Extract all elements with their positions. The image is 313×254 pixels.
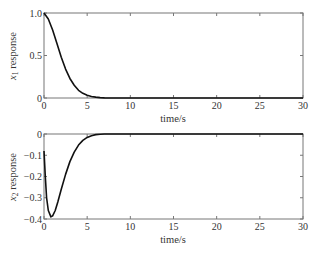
x1-ylabel: x1 response bbox=[7, 32, 20, 81]
x-tick-label: 25 bbox=[255, 221, 265, 232]
x-tick-label: 0 bbox=[42, 221, 47, 232]
y-tick-label: 0 bbox=[37, 93, 42, 104]
x1-line bbox=[44, 13, 303, 98]
x-tick-label: 30 bbox=[298, 100, 308, 111]
x1-response-plot: 05101520253000.51.0 time/s x1 response bbox=[7, 8, 308, 125]
y-tick-label: 0 bbox=[37, 129, 42, 140]
x-tick-label: 10 bbox=[125, 221, 135, 232]
x1-plot-frame bbox=[44, 13, 303, 98]
x-tick-label: 15 bbox=[169, 100, 179, 111]
x-tick-label: 10 bbox=[125, 100, 135, 111]
x2-response-plot: 0510152025300−0.1−0.2−0.3−0.4 time/s x2 … bbox=[7, 129, 308, 246]
y-tick-label: −0.4 bbox=[24, 214, 42, 225]
x2-plot-ticks: 0510152025300−0.1−0.2−0.3−0.4 bbox=[24, 129, 308, 233]
x-tick-label: 0 bbox=[42, 100, 47, 111]
y-tick-label: −0.3 bbox=[24, 192, 42, 203]
x-tick-label: 20 bbox=[212, 221, 222, 232]
x-tick-label: 5 bbox=[85, 100, 90, 111]
x-tick-label: 15 bbox=[169, 221, 179, 232]
x-tick-label: 30 bbox=[298, 221, 308, 232]
x2-response-curve bbox=[44, 134, 303, 217]
x2-ylabel: x2 response bbox=[7, 153, 20, 202]
x2-xlabel: time/s bbox=[160, 234, 186, 245]
y-tick-label: 0.5 bbox=[30, 50, 43, 61]
x-tick-label: 20 bbox=[212, 100, 222, 111]
y-tick-label: 1.0 bbox=[30, 8, 43, 19]
y-tick-label: −0.1 bbox=[24, 150, 42, 161]
y-tick-label: −0.2 bbox=[24, 171, 42, 182]
x1-plot-ticks: 05101520253000.51.0 bbox=[30, 8, 309, 112]
chart-canvas: 05101520253000.51.0 time/s x1 response 0… bbox=[0, 0, 313, 254]
x2-line bbox=[44, 134, 303, 217]
x-tick-label: 25 bbox=[255, 100, 265, 111]
x1-xlabel: time/s bbox=[160, 113, 186, 124]
x2-plot-frame bbox=[44, 134, 303, 219]
x-tick-label: 5 bbox=[85, 221, 90, 232]
x1-response-curve bbox=[44, 13, 303, 98]
